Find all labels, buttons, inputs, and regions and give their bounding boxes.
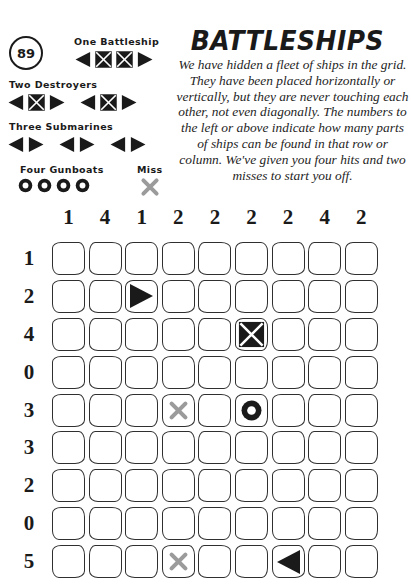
grid-cell[interactable] [272, 469, 305, 502]
grid-cell[interactable] [235, 507, 268, 540]
grid-cell[interactable] [198, 356, 231, 389]
grid-cell[interactable] [308, 356, 341, 389]
grid-cell[interactable] [162, 431, 195, 464]
grid-cell[interactable] [162, 545, 195, 578]
grid-cell[interactable] [345, 242, 378, 275]
grid-cell[interactable] [162, 356, 195, 389]
grid-cell[interactable] [308, 469, 341, 502]
row-clue-6: 3 [12, 431, 46, 464]
grid-cell[interactable] [198, 545, 231, 578]
grid-cell[interactable] [89, 545, 122, 578]
grid-cell[interactable] [162, 469, 195, 502]
grid-cell[interactable] [235, 242, 268, 275]
grid-cell[interactable] [198, 394, 231, 427]
grid-cell[interactable] [89, 431, 122, 464]
grid-cell[interactable] [52, 507, 85, 540]
grid-cell[interactable] [198, 431, 231, 464]
grid-cell[interactable] [308, 507, 341, 540]
col-clue-9: 2 [345, 205, 378, 230]
grid-cell[interactable] [52, 431, 85, 464]
grid-cell[interactable] [345, 431, 378, 464]
grid-cell[interactable] [235, 394, 268, 427]
grid-cell[interactable] [272, 507, 305, 540]
col-clue-5: 2 [198, 205, 231, 230]
grid-cell[interactable] [198, 507, 231, 540]
grid-cell[interactable] [52, 318, 85, 351]
grid-cell[interactable] [272, 280, 305, 313]
legend-label-miss: Miss [137, 164, 163, 175]
grid-cell[interactable] [125, 356, 158, 389]
end-left-icon [6, 93, 25, 112]
grid-cell[interactable] [308, 545, 341, 578]
grid-cell[interactable] [52, 469, 85, 502]
grid-cell[interactable] [345, 394, 378, 427]
grid-cell[interactable] [89, 280, 122, 313]
grid-cell[interactable] [162, 280, 195, 313]
grid-cell[interactable] [308, 318, 341, 351]
grid-cell[interactable] [52, 545, 85, 578]
legend-label-battleship: One Battleship [74, 36, 159, 47]
grid-cell[interactable] [308, 242, 341, 275]
grid-cell[interactable] [162, 318, 195, 351]
grid-cell[interactable] [162, 242, 195, 275]
grid-cell[interactable] [235, 545, 268, 578]
grid-cell[interactable] [308, 280, 341, 313]
grid-cell[interactable] [198, 242, 231, 275]
column-clues: 141222242 [52, 205, 378, 230]
grid-cell[interactable] [52, 356, 85, 389]
grid-cell[interactable] [308, 394, 341, 427]
grid-cell[interactable] [235, 469, 268, 502]
grid-cell[interactable] [125, 394, 158, 427]
grid-cell[interactable] [198, 280, 231, 313]
grid-cell[interactable] [125, 545, 158, 578]
grid-cell[interactable] [89, 469, 122, 502]
grid-cell[interactable] [198, 318, 231, 351]
grid-cell[interactable] [272, 394, 305, 427]
grid-cell[interactable] [89, 318, 122, 351]
grid-cell[interactable] [345, 280, 378, 313]
grid-cell[interactable] [235, 356, 268, 389]
grid-cell[interactable] [235, 318, 268, 351]
grid-cell[interactable] [125, 431, 158, 464]
grid-cell[interactable] [235, 280, 268, 313]
row-clue-3: 4 [12, 318, 46, 351]
puzzle-grid [52, 242, 378, 578]
grid-cell[interactable] [272, 242, 305, 275]
grid-cell[interactable] [162, 507, 195, 540]
grid-cell[interactable] [272, 356, 305, 389]
grid-cell[interactable] [125, 280, 158, 313]
grid-cell[interactable] [272, 431, 305, 464]
grid-cell[interactable] [89, 356, 122, 389]
grid-cell[interactable] [345, 356, 378, 389]
grid-cell[interactable] [52, 280, 85, 313]
grid-cell[interactable] [52, 394, 85, 427]
grid-cell[interactable] [235, 431, 268, 464]
end-right-icon [127, 281, 157, 311]
grid-cell[interactable] [272, 545, 305, 578]
grid-cell[interactable] [125, 507, 158, 540]
end-left-icon [273, 547, 303, 577]
grid-cell[interactable] [89, 507, 122, 540]
end-right-icon [120, 93, 139, 112]
grid-cell[interactable] [272, 318, 305, 351]
grid-cell[interactable] [345, 545, 378, 578]
grid-cell[interactable] [345, 318, 378, 351]
grid-cell[interactable] [162, 394, 195, 427]
end-left-icon [6, 135, 25, 154]
grid-cell[interactable] [89, 394, 122, 427]
puzzle-number-badge: 89 [9, 36, 43, 70]
grid-cell[interactable] [125, 469, 158, 502]
grid-cell[interactable] [52, 242, 85, 275]
legend-label-destroyers: Two Destroyers [9, 79, 97, 90]
end-left-icon [57, 135, 76, 154]
grid-cell[interactable] [308, 431, 341, 464]
grid-cell[interactable] [89, 242, 122, 275]
grid-cell[interactable] [198, 469, 231, 502]
grid-cell[interactable] [125, 242, 158, 275]
miss-icon [167, 550, 190, 573]
grid-cell[interactable] [345, 469, 378, 502]
grid-cell[interactable] [125, 318, 158, 351]
instructions-text: We have hidden a fleet of ships in the g… [176, 57, 409, 183]
grid-cell[interactable] [345, 507, 378, 540]
row-clues: 124033205 [12, 242, 46, 578]
